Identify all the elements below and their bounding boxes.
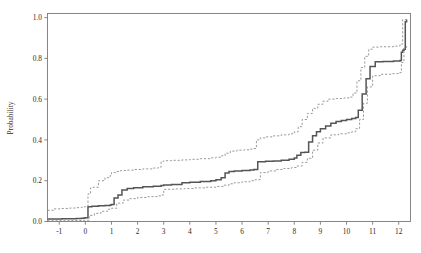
x-tick-label: -1 bbox=[56, 227, 62, 236]
y-axis-title: Probability bbox=[6, 101, 15, 134]
y-tick-label: 0.4 bbox=[33, 136, 43, 145]
x-tick-label: 6 bbox=[240, 227, 244, 236]
x-tick-label: 8 bbox=[292, 227, 296, 236]
chart-container: 0.00.20.40.60.81.0 -10123456789101112 Pr… bbox=[0, 0, 421, 253]
x-tick-label: 4 bbox=[188, 227, 192, 236]
x-tick-label: 9 bbox=[319, 227, 323, 236]
y-tick-label: 0.8 bbox=[33, 54, 43, 63]
chart-background bbox=[0, 0, 421, 253]
x-tick-label: 11 bbox=[369, 227, 376, 236]
y-tick-label: 0.2 bbox=[33, 176, 43, 185]
x-tick-label: 10 bbox=[343, 227, 351, 236]
y-tick-label: 0.6 bbox=[33, 95, 43, 104]
x-tick-label: 2 bbox=[136, 227, 140, 236]
x-tick-label: 5 bbox=[214, 227, 218, 236]
x-tick-label: 7 bbox=[266, 227, 270, 236]
y-tick-label: 1.0 bbox=[33, 13, 43, 22]
probability-step-chart: 0.00.20.40.60.81.0 -10123456789101112 Pr… bbox=[0, 0, 421, 253]
x-tick-label: 12 bbox=[395, 227, 403, 236]
x-tick-label: 3 bbox=[162, 227, 166, 236]
x-tick-label: 1 bbox=[110, 227, 114, 236]
x-tick-label: 0 bbox=[84, 227, 88, 236]
y-tick-label: 0.0 bbox=[33, 217, 43, 226]
